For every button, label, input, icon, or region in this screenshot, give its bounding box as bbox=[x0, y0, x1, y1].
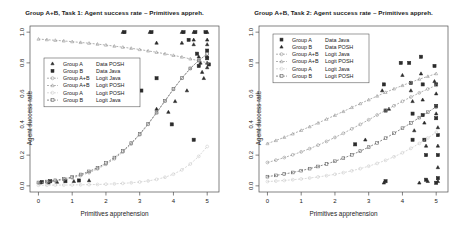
svg-text:0.6: 0.6 bbox=[19, 89, 25, 98]
svg-text:Logit POSH: Logit POSH bbox=[96, 82, 125, 88]
svg-text:Group A: Group A bbox=[63, 61, 83, 67]
svg-text:0.6: 0.6 bbox=[248, 89, 254, 98]
svg-text:Group A: Group A bbox=[63, 90, 83, 96]
svg-text:Group A: Group A bbox=[292, 66, 312, 72]
figure-two-panel-scatter-plots: Group A+B, Task 1: Agent success rate ~ … bbox=[0, 0, 458, 235]
svg-text:0.4: 0.4 bbox=[248, 120, 254, 129]
svg-text:Group A+B: Group A+B bbox=[63, 82, 90, 88]
svg-text:Logit POSH: Logit POSH bbox=[325, 73, 354, 79]
svg-text:0.2: 0.2 bbox=[248, 150, 254, 159]
svg-text:Group B: Group B bbox=[292, 73, 312, 79]
svg-text:Data Java: Data Java bbox=[96, 68, 120, 74]
plot-area-task-2: 0123450.00.20.40.60.81.0Group AData Java… bbox=[229, 0, 458, 235]
svg-text:3: 3 bbox=[138, 198, 142, 204]
svg-text:0.0: 0.0 bbox=[19, 181, 25, 190]
svg-text:3: 3 bbox=[367, 198, 371, 204]
svg-text:Group A+B: Group A+B bbox=[63, 75, 90, 81]
svg-text:Group B: Group B bbox=[63, 68, 83, 74]
x-axis-label-task-1: Primitives apprehension bbox=[0, 210, 229, 217]
svg-text:0.8: 0.8 bbox=[248, 58, 254, 67]
svg-text:0.0: 0.0 bbox=[248, 181, 254, 190]
panel-task-2: Group A+B, Task 2: Agent success rate ~ … bbox=[229, 0, 458, 235]
y-axis-label-task-2: Agent success rate bbox=[255, 90, 262, 144]
svg-text:4: 4 bbox=[172, 198, 176, 204]
svg-text:Data POSH: Data POSH bbox=[325, 44, 353, 50]
plot-area-task-1: 0123450.00.20.40.60.81.0Group AData POSH… bbox=[0, 0, 229, 235]
svg-text:0.4: 0.4 bbox=[19, 120, 25, 129]
svg-text:2: 2 bbox=[104, 198, 108, 204]
svg-text:0: 0 bbox=[266, 198, 270, 204]
svg-text:Data Java: Data Java bbox=[325, 37, 349, 43]
svg-text:4: 4 bbox=[401, 198, 405, 204]
svg-text:Group A+B: Group A+B bbox=[292, 51, 319, 57]
svg-text:Group A: Group A bbox=[292, 37, 312, 43]
svg-text:Group B: Group B bbox=[63, 97, 83, 103]
svg-text:5: 5 bbox=[435, 198, 439, 204]
svg-text:0.2: 0.2 bbox=[19, 150, 25, 159]
svg-text:Group B: Group B bbox=[292, 44, 312, 50]
svg-text:Logit Java: Logit Java bbox=[96, 75, 121, 81]
svg-text:Data POSH: Data POSH bbox=[96, 61, 124, 67]
svg-text:Logit Java: Logit Java bbox=[96, 97, 121, 103]
svg-text:1.0: 1.0 bbox=[248, 27, 254, 36]
y-axis-label-task-1: Agent success rate bbox=[26, 90, 33, 144]
svg-text:Logit POSH: Logit POSH bbox=[325, 58, 354, 64]
svg-text:2: 2 bbox=[333, 198, 337, 204]
svg-text:Logit POSH: Logit POSH bbox=[96, 90, 125, 96]
svg-text:0.8: 0.8 bbox=[19, 58, 25, 67]
svg-text:Logit Java: Logit Java bbox=[325, 66, 350, 72]
x-axis-label-task-2: Primitives apprehension bbox=[229, 210, 458, 217]
svg-text:5: 5 bbox=[206, 198, 210, 204]
svg-text:1.0: 1.0 bbox=[19, 27, 25, 36]
panel-task-1: Group A+B, Task 1: Agent success rate ~ … bbox=[0, 0, 229, 235]
svg-text:0: 0 bbox=[37, 198, 41, 204]
svg-text:Logit Java: Logit Java bbox=[325, 51, 350, 57]
svg-text:1: 1 bbox=[71, 198, 75, 204]
svg-text:Group A+B: Group A+B bbox=[292, 58, 319, 64]
svg-text:1: 1 bbox=[300, 198, 304, 204]
